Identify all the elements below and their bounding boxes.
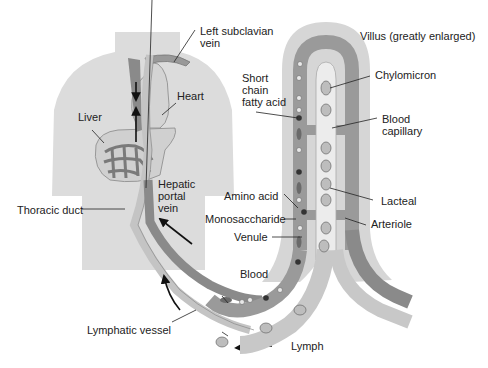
title-villus: Villus (greatly enlarged) <box>360 30 475 42</box>
label-lymph: Lymph <box>291 340 324 352</box>
label-hepatic-portal-vein: Hepatic portal vein <box>158 178 195 214</box>
label-lymphatic-vessel: Lymphatic vessel <box>87 324 171 336</box>
label-short-chain-fatty-acid: Short chain fatty acid <box>242 72 286 108</box>
label-liver: Liver <box>78 111 102 123</box>
label-blood-capillary: Blood capillary <box>382 113 422 137</box>
digestive-absorption-diagram <box>0 0 488 368</box>
label-blood: Blood <box>240 268 268 280</box>
label-venule: Venule <box>234 231 268 243</box>
label-lacteal: Lacteal <box>381 195 416 207</box>
label-thoracic-duct: Thoracic duct <box>17 204 83 216</box>
label-amino-acid: Amino acid <box>224 190 278 202</box>
label-chylomicron: Chylomicron <box>375 69 436 81</box>
label-monosaccharide: Monosaccharide <box>205 213 286 225</box>
label-left-subclavian-vein: Left subclavian vein <box>200 25 273 49</box>
label-arteriole: Arteriole <box>371 218 412 230</box>
label-heart: Heart <box>177 90 204 102</box>
